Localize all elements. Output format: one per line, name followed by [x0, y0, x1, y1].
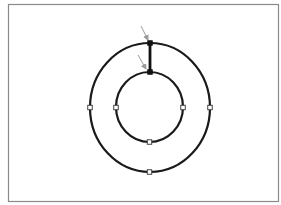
canvas-background [0, 0, 281, 205]
inner-left-handle[interactable] [114, 105, 119, 110]
outer-left-handle[interactable] [88, 105, 93, 110]
outer-top-handle[interactable] [148, 41, 153, 46]
outer-right-handle[interactable] [208, 105, 213, 110]
outer-bottom-handle[interactable] [147, 170, 152, 175]
inner-bottom-handle[interactable] [147, 140, 152, 145]
drawing-canvas[interactable] [0, 0, 281, 205]
inner-right-handle[interactable] [181, 105, 186, 110]
inner-top-handle[interactable] [148, 70, 153, 75]
